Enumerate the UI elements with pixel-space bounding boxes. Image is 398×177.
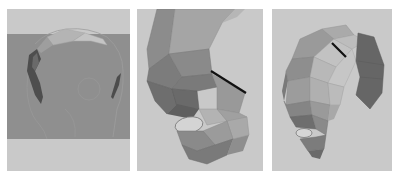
viewport-panel-1 [7, 9, 130, 171]
head-reference-mesh [7, 9, 130, 171]
viewport-panel-3 [272, 9, 392, 171]
forehead-eye-mesh [137, 9, 263, 171]
viewport-panel-2 [137, 9, 263, 171]
skull-mesh [272, 9, 392, 171]
side-patch [356, 33, 384, 109]
